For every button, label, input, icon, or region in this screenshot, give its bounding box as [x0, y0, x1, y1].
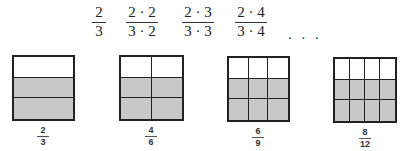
cell-shaded [249, 79, 269, 100]
denominator: 9 [255, 138, 260, 148]
numerator: 2 · 4 [235, 5, 267, 20]
cell [365, 59, 380, 80]
denominator: 6 [148, 137, 153, 147]
cell [249, 58, 269, 79]
cell-shaded [350, 80, 365, 101]
cell-shaded [249, 99, 269, 120]
cell [350, 59, 365, 80]
denominator: 3 · 3 [182, 24, 214, 39]
cell-shaded [380, 80, 395, 101]
label-4-6: 4 6 [141, 126, 161, 147]
cell-shaded [229, 99, 249, 120]
denominator: 12 [360, 139, 370, 149]
cell-shaded [14, 98, 73, 119]
cell [335, 59, 350, 80]
cell [14, 57, 73, 78]
area-model-8-12 [333, 57, 397, 123]
ellipsis: . . . [288, 26, 322, 43]
label-8-12: 8 12 [355, 128, 375, 149]
cell-shaded [335, 80, 350, 101]
cell-shaded [152, 78, 183, 99]
fraction-2x3-3x3: 2 · 3 3 · 3 [182, 5, 214, 39]
cell-shaded [365, 80, 380, 101]
cell [229, 58, 249, 79]
cell [152, 57, 183, 78]
fraction-2x2-3x2: 2 · 2 3 · 2 [126, 5, 158, 39]
denominator: 3 [40, 137, 45, 147]
cell-shaded [121, 98, 152, 119]
cell [380, 59, 395, 80]
area-model-4-6 [119, 55, 184, 121]
area-model-6-9 [227, 56, 290, 122]
numerator: 2 · 3 [182, 5, 214, 20]
cell [121, 57, 152, 78]
numerator: 2 · 2 [126, 5, 158, 20]
numerator: 2 [40, 125, 45, 135]
cell-shaded [365, 100, 380, 121]
cell-shaded [268, 79, 288, 100]
denominator: 3 [92, 24, 106, 39]
fraction-2-3: 2 3 [92, 5, 106, 39]
label-2-3: 2 3 [33, 126, 53, 147]
area-model-2-3 [12, 55, 75, 121]
cell-shaded [152, 98, 183, 119]
cell-shaded [229, 79, 249, 100]
label-6-9: 6 9 [248, 127, 268, 148]
denominator: 3 · 4 [235, 24, 267, 39]
fraction-2x4-3x4: 2 · 4 3 · 4 [235, 5, 267, 39]
numerator: 8 [362, 127, 367, 137]
numerator: 2 [92, 5, 106, 20]
cell-shaded [121, 78, 152, 99]
cell [268, 58, 288, 79]
denominator: 3 · 2 [126, 24, 158, 39]
cell-shaded [268, 99, 288, 120]
cell-shaded [350, 100, 365, 121]
cell-shaded [380, 100, 395, 121]
cell-shaded [14, 78, 73, 99]
cell-shaded [335, 100, 350, 121]
numerator: 4 [148, 125, 153, 135]
numerator: 6 [255, 126, 260, 136]
